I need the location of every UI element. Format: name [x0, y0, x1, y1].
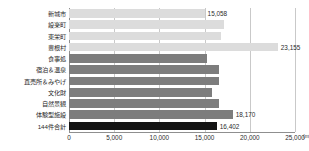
category-label: 文化財	[2, 87, 66, 98]
bar-row	[69, 42, 295, 53]
bar-row	[69, 121, 295, 132]
plot-area	[69, 8, 295, 132]
bar	[69, 65, 219, 74]
bar	[69, 77, 219, 86]
bar	[69, 20, 224, 29]
value-label: 15,058	[208, 8, 228, 19]
tick-label: 5,000	[106, 134, 122, 141]
axis-unit-label: (m)	[303, 133, 309, 139]
category-label: 宿泊＆温泉	[2, 64, 66, 75]
category-label: 自然景観	[2, 98, 66, 109]
bar	[69, 54, 207, 63]
bar-row	[69, 98, 295, 109]
value-label: 23,155	[281, 42, 301, 53]
bar-row	[69, 109, 295, 120]
tick-label: 20,000	[240, 134, 260, 141]
bar-row	[69, 53, 295, 64]
tick-label: 0	[67, 134, 71, 141]
bar	[69, 122, 217, 131]
x-axis-baseline	[69, 132, 295, 133]
bar-chart: 新城市設楽町東栄町豊根村食事処宿泊＆温泉直売所＆みやげ文化財自然景観体験型施設1…	[0, 0, 309, 151]
value-label: 16,402	[220, 121, 240, 132]
bar	[69, 88, 212, 97]
category-label: 体験型施設	[2, 109, 66, 120]
tick-label: 10,000	[150, 134, 170, 141]
value-label: 18,170	[236, 109, 256, 120]
bar	[69, 99, 219, 108]
category-label: 直売所＆みやげ	[2, 76, 66, 87]
category-label: 144件合計	[2, 121, 66, 132]
category-label: 食事処	[2, 53, 66, 64]
bar-row	[69, 19, 295, 30]
tick-label: 25,000	[285, 134, 305, 141]
bar	[69, 43, 278, 52]
category-label: 設楽町	[2, 19, 66, 30]
bar	[69, 9, 205, 18]
category-label: 東栄町	[2, 31, 66, 42]
category-label: 新城市	[2, 8, 66, 19]
bar	[69, 32, 221, 41]
gridline	[295, 8, 296, 132]
bar-row	[69, 76, 295, 87]
bar-row	[69, 87, 295, 98]
bar	[69, 110, 233, 119]
bar-row	[69, 64, 295, 75]
tick-label: 15,000	[195, 134, 215, 141]
bar-row	[69, 31, 295, 42]
category-label: 豊根村	[2, 42, 66, 53]
bar-row	[69, 8, 295, 19]
